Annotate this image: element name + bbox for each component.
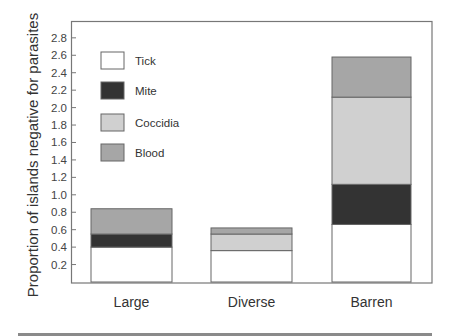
y-axis-label: Proportion of islands negative for paras… <box>24 13 41 297</box>
x-category-label: Large <box>114 294 150 310</box>
legend-label: Mite <box>135 85 157 97</box>
y-tick-label: 1.2 <box>51 171 67 183</box>
y-tick-label: 2.8 <box>51 32 67 44</box>
x-category-label: Diverse <box>228 294 276 310</box>
y-tick-label: 2.6 <box>51 49 67 61</box>
bar-segment-mite <box>91 234 172 247</box>
y-tick-label: 1.8 <box>51 119 67 131</box>
y-tick-label: 2.2 <box>51 84 67 96</box>
y-tick-label: 2.4 <box>51 67 68 79</box>
bar-segment-mite <box>332 184 411 224</box>
legend-label: Tick <box>135 55 156 67</box>
legend-item-coccidia: Coccidia <box>101 114 180 131</box>
bar-segment-tick <box>211 251 292 282</box>
legend: TickMiteCoccidiaBlood <box>101 52 180 161</box>
stacked-bar-chart: Proportion of islands negative for paras… <box>0 0 452 336</box>
bar-segment-tick <box>332 224 411 282</box>
legend-swatch <box>101 52 124 69</box>
bar-barren <box>332 57 411 282</box>
bar-segment-coccidia <box>211 234 292 251</box>
y-tick-label: 0.6 <box>51 224 67 236</box>
bar-diverse <box>211 228 292 282</box>
y-tick-label: 1.0 <box>51 189 67 201</box>
legend-label: Coccidia <box>135 117 180 129</box>
legend-item-mite: Mite <box>101 82 157 99</box>
legend-swatch <box>101 114 124 131</box>
legend-label: Blood <box>135 147 164 159</box>
x-axis-labels: LargeDiverseBarren <box>114 294 393 310</box>
x-category-label: Barren <box>350 294 392 310</box>
y-axis-ticks: 0.20.40.60.81.01.21.41.61.82.02.22.42.62… <box>51 32 76 271</box>
bar-segment-blood <box>332 57 411 97</box>
y-tick-label: 2.0 <box>51 102 67 114</box>
bar-segment-blood <box>91 209 172 234</box>
y-tick-label: 0.2 <box>51 259 67 271</box>
bar-large <box>91 209 172 282</box>
legend-item-blood: Blood <box>101 144 164 161</box>
legend-item-tick: Tick <box>101 52 156 69</box>
bar-segment-tick <box>91 247 172 282</box>
bar-segment-blood <box>211 228 292 234</box>
bar-segment-coccidia <box>332 97 411 184</box>
y-tick-label: 0.4 <box>51 241 68 253</box>
y-tick-label: 0.8 <box>51 206 67 218</box>
legend-swatch <box>101 144 124 161</box>
y-tick-label: 1.6 <box>51 136 67 148</box>
y-tick-label: 1.4 <box>51 154 68 166</box>
legend-swatch <box>101 82 124 99</box>
